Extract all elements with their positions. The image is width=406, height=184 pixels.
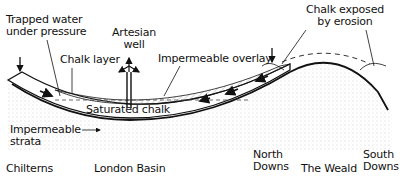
place-north-downs: North Downs <box>253 149 289 173</box>
leader-chalk-exposed-right <box>366 30 374 66</box>
place-the-weald: The Weald <box>301 163 357 175</box>
place-south-downs: South Downs <box>363 149 399 173</box>
label-chalk-exposed: Chalk exposed by erosion <box>306 4 384 28</box>
label-impermeable-strata: Impermeable strata <box>10 124 81 148</box>
place-chilterns: Chilterns <box>6 163 53 175</box>
label-impermeable-strata-line2: strata <box>10 136 81 148</box>
leader-impermeable-overlay <box>164 66 180 96</box>
label-artesian-well: Artesian well <box>112 27 156 51</box>
place-south-downs-line2: Downs <box>363 161 399 173</box>
label-chalk-layer: Chalk layer <box>60 54 120 66</box>
south-downs-ground <box>360 63 386 70</box>
label-chalk-exposed-line2: by erosion <box>306 16 384 28</box>
artesian-basin-diagram: Trapped water under pressure Chalk layer… <box>0 0 406 184</box>
label-saturated-chalk: Saturated chalk <box>86 104 170 116</box>
label-trapped-water: Trapped water under pressure <box>6 14 86 38</box>
label-impermeable-overlay: Impermeable overlay <box>158 53 272 65</box>
label-artesian-well-line2: well <box>112 39 156 51</box>
place-north-downs-line2: Downs <box>253 161 289 173</box>
label-trapped-water-line2: under pressure <box>6 26 86 38</box>
place-london-basin: London Basin <box>94 163 165 175</box>
leader-chalk-exposed-left <box>282 30 306 64</box>
